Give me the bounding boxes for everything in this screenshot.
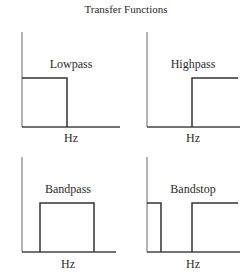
bandstop-curve-high [192, 203, 238, 252]
bandstop-curve-low [147, 203, 161, 252]
panel-label: Highpass [171, 57, 216, 71]
x-axis-label: Hz [186, 257, 200, 271]
panel-label: Lowpass [50, 57, 93, 71]
highpass-curve [192, 78, 238, 127]
panel-bandstop: Bandstop Hz [147, 157, 240, 271]
panel-bandpass: Bandpass Hz [22, 157, 116, 271]
panel-label: Bandpass [45, 182, 91, 196]
panel-highpass: Highpass Hz [147, 32, 240, 145]
transfer-functions-diagram: Lowpass Hz Highpass Hz Bandpass Hz Bands… [0, 0, 252, 277]
lowpass-curve [22, 78, 67, 127]
panel-lowpass: Lowpass Hz [22, 32, 120, 145]
x-axis-label: Hz [61, 257, 75, 271]
x-axis-label: Hz [186, 131, 200, 145]
x-axis-label: Hz [64, 131, 78, 145]
panel-label: Bandstop [170, 182, 215, 196]
bandpass-curve [40, 203, 94, 252]
